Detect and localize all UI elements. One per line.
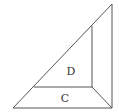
- connector-diagonal: [92, 87, 112, 108]
- region-c-label: C: [61, 92, 69, 105]
- region-d-label: D: [67, 65, 76, 78]
- geometry-diagram: D C: [0, 0, 119, 112]
